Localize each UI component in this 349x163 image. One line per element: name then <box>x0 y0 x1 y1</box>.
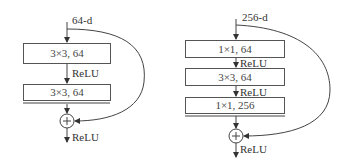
left-relu-label-2: ReLU <box>72 131 99 143</box>
right-relu-label-3: ReLU <box>240 143 267 155</box>
left-conv-layer-2: 3×3, 64 <box>23 84 111 101</box>
diagram-lines <box>0 0 349 163</box>
right-conv-layer-2: 3×3, 64 <box>185 68 285 86</box>
right-add-icon <box>229 129 243 143</box>
left-add-icon <box>60 114 74 128</box>
right-conv-layer-3: 1×1, 256 <box>185 97 285 114</box>
left-relu-label-1: ReLU <box>72 67 99 79</box>
left-conv-layer-1: 3×3, 64 <box>23 43 111 64</box>
right-input-dim-label: 256-d <box>242 11 268 23</box>
right-conv-layer-1: 1×1, 64 <box>185 40 285 58</box>
left-input-dim-label: 64-d <box>72 14 92 26</box>
